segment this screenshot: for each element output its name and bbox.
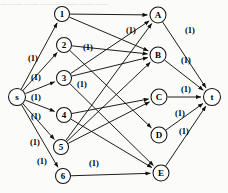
- right-node-label-A: A: [155, 10, 162, 20]
- capacity-label-2-B: (1): [83, 42, 93, 52]
- source-node-label-s: s: [15, 92, 19, 102]
- capacity-label-D-t: (1): [175, 108, 185, 118]
- capacity-label-s-1: (1): [28, 53, 38, 63]
- left-node-label-1: 1: [60, 9, 65, 19]
- left-node-label-2: 2: [62, 40, 67, 50]
- edge-matching-3-to-E: [70, 84, 154, 166]
- edge-matching-1-to-A: [70, 14, 147, 15]
- edge-layer: [21, 14, 206, 176]
- capacity-label-s-2: (1): [31, 72, 41, 82]
- capacity-label-3-A: (1): [126, 25, 136, 35]
- capacity-label-s-3: (1): [31, 92, 41, 102]
- capacity-label-C-t: (1): [181, 84, 191, 94]
- bipartite-flow-graph: s123456ABCDEt (1)(1)(1)(1)(1)(1)(1)(1)(1…: [0, 0, 228, 193]
- capacity-label-s-5: (1): [30, 137, 40, 147]
- right-node-label-B: B: [155, 50, 161, 60]
- right-node-label-D: D: [156, 130, 163, 140]
- capacity-label-s-4: (1): [31, 111, 41, 121]
- flow-network-figure: — —— —— ——— —— —— —— s123456ABCDEt (1)(1…: [0, 0, 228, 193]
- edge-matching-2-to-D: [70, 51, 151, 128]
- capacity-label-s-6: (1): [37, 156, 47, 166]
- left-node-label-4: 4: [62, 110, 67, 120]
- capacity-label-3-B: (1): [77, 79, 87, 89]
- left-node-label-3: 3: [62, 73, 67, 83]
- right-node-label-C: C: [156, 92, 163, 102]
- left-node-label-5: 5: [59, 142, 64, 152]
- edge-matching-3-to-B: [72, 58, 148, 77]
- left-node-label-6: 6: [61, 171, 66, 181]
- edge-sink-E-to-t: [166, 106, 206, 166]
- capacity-label-6-E: (1): [89, 158, 99, 168]
- edge-matching-5-to-C: [68, 102, 149, 144]
- capacity-label-A-t: (1): [185, 25, 195, 35]
- edge-matching-6-to-E: [71, 173, 150, 175]
- capacity-label-B-t: (1): [181, 55, 191, 65]
- right-node-label-E: E: [158, 168, 164, 178]
- sink-node-label-t: t: [211, 92, 214, 102]
- edge-matching-4-to-C: [72, 99, 149, 114]
- capacity-label-E-t: (1): [179, 126, 189, 136]
- edge-matching-1-to-B: [69, 17, 148, 51]
